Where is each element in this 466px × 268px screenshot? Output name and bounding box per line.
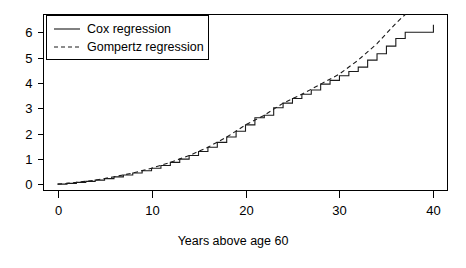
y-tick-label: 5: [25, 51, 32, 66]
y-tick-label: 1: [25, 152, 32, 167]
y-tick-label: 4: [25, 76, 32, 91]
cumulative-hazard-chart: 0123456 010203040 Cox regression Gompert…: [0, 0, 466, 268]
chart-legend: Cox regression Gompertz regression: [47, 16, 209, 60]
x-tick-label: 30: [332, 203, 346, 218]
y-tick-label: 3: [25, 101, 32, 116]
x-axis-title: Years above age 60: [178, 234, 289, 248]
legend-label-cox: Cox regression: [87, 22, 171, 36]
chart-container: 0123456 010203040 Cox regression Gompert…: [0, 0, 466, 268]
x-tick-label: 0: [55, 203, 62, 218]
y-tick-label: 2: [25, 127, 32, 142]
y-tick-label: 0: [25, 177, 32, 192]
y-tick-label: 6: [25, 25, 32, 40]
x-tick-label: 20: [239, 203, 253, 218]
x-tick-label: 10: [145, 203, 159, 218]
legend-label-gompertz: Gompertz regression: [87, 40, 204, 54]
x-tick-label: 40: [426, 203, 440, 218]
